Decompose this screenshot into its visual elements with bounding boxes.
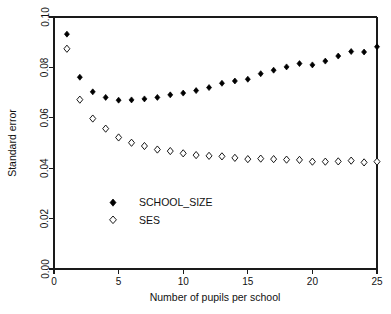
data-point [90,89,95,95]
data-point [232,78,237,84]
data-point [180,150,186,157]
data-point [206,152,212,159]
data-point [361,159,367,166]
data-point [374,158,380,165]
x-tick-label: 20 [307,276,319,287]
x-axis-title: Number of pupils per school [150,291,281,303]
legend-entry-ses: SES [110,214,160,226]
data-point [141,142,147,149]
data-point [271,156,277,163]
data-point [116,134,122,141]
data-point [297,61,302,67]
series-ses [64,45,380,166]
data-point [64,31,69,37]
data-point [77,96,83,103]
data-point [154,146,160,153]
data-point [194,88,199,94]
axes [54,17,377,269]
data-point [271,67,276,73]
legend-label-ses: SES [139,214,160,226]
scatter-plot: 0.000.020.040.060.080.10 0510152025 Stan… [0,0,391,314]
data-point [167,147,173,154]
data-point [362,49,367,55]
data-point [322,158,328,165]
series-school-size [64,31,379,103]
data-point [142,96,147,102]
y-tick-label: 0.10 [40,7,51,27]
y-axis-ticks: 0.000.020.040.060.080.10 [40,7,55,279]
y-tick-label: 0.06 [40,108,51,128]
data-point [258,155,264,162]
data-point [232,154,238,161]
legend-entry-school-size: SCHOOL_SIZE [110,196,213,208]
chart-legend: SCHOOL_SIZE SES [110,196,213,226]
data-point [348,157,354,164]
data-point [103,125,109,132]
data-point [245,156,251,163]
x-tick-label: 0 [51,276,57,287]
data-point [219,153,225,160]
data-point [64,45,70,52]
y-tick-label: 0.00 [40,259,51,279]
y-axis-title: Standard error [6,109,18,177]
data-point [336,53,341,59]
data-point [129,139,135,146]
data-point [103,94,108,100]
y-tick-label: 0.02 [40,208,51,228]
data-point [258,71,263,77]
y-tick-label: 0.04 [40,158,51,178]
data-point [219,80,224,86]
data-point [129,97,134,103]
data-point [349,49,354,55]
data-point [116,97,121,103]
data-point [181,90,186,96]
data-point [193,151,199,158]
data-point [245,76,250,82]
data-point [375,44,380,50]
legend-label-school-size: SCHOOL_SIZE [139,196,213,208]
data-point [310,62,315,68]
data-point [77,74,82,80]
data-point [90,115,96,122]
x-tick-label: 10 [178,276,190,287]
data-point [335,158,341,165]
y-tick-label: 0.08 [40,57,51,77]
chart-figure: 0.000.020.040.060.080.10 0510152025 Stan… [0,0,391,314]
x-tick-label: 15 [242,276,254,287]
filled-diamond-icon [110,199,116,206]
data-point [207,85,212,91]
data-point [155,94,160,100]
x-tick-label: 25 [371,276,383,287]
data-point [284,156,290,163]
x-axis-ticks: 0510152025 [51,269,383,287]
data-point [309,158,315,165]
x-tick-label: 5 [116,276,122,287]
data-point [284,64,289,70]
data-point [168,92,173,98]
data-point [296,156,302,163]
open-diamond-icon [110,216,117,224]
data-point [323,58,328,64]
